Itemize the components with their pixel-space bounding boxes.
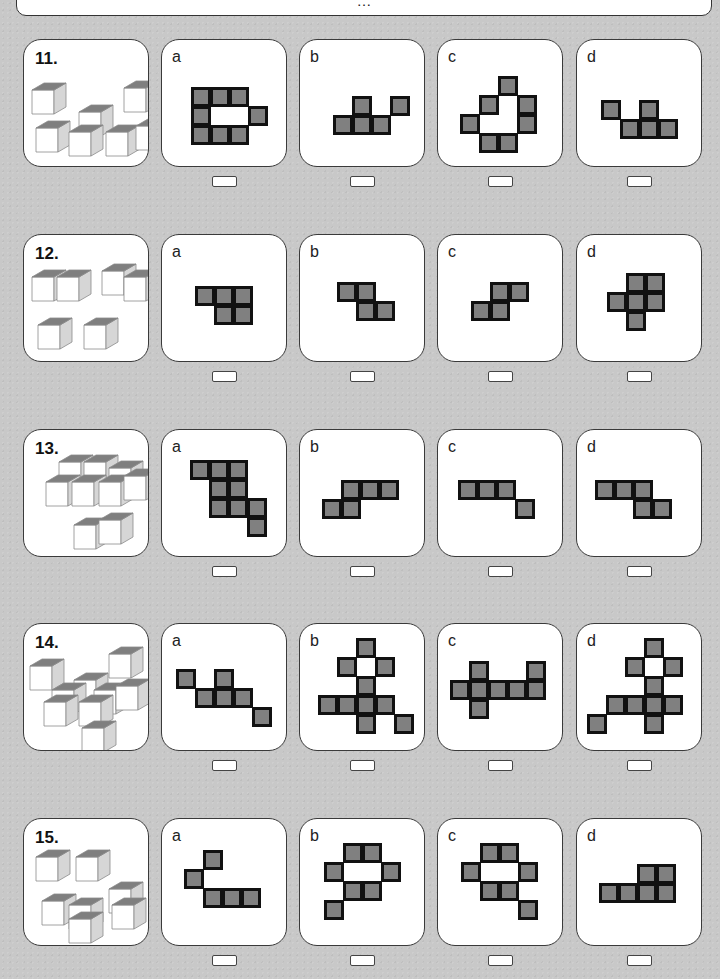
- net-square: [248, 106, 268, 126]
- answer-box-13d[interactable]: [627, 566, 652, 577]
- option-label: d: [587, 438, 596, 456]
- instructions-panel: …: [16, 0, 712, 16]
- cube-figure-card: 15.: [23, 818, 149, 946]
- net-square: [496, 480, 516, 500]
- net-square: [341, 480, 361, 500]
- net-square: [618, 883, 638, 903]
- answer-box-15c[interactable]: [488, 955, 513, 966]
- net-square: [233, 305, 253, 325]
- net-square: [343, 881, 363, 901]
- net-square: [595, 480, 615, 500]
- net-square: [480, 843, 500, 863]
- net-square: [337, 282, 357, 302]
- net-square: [518, 900, 538, 920]
- answer-box-13c[interactable]: [488, 566, 513, 577]
- net-square: [356, 714, 376, 734]
- option-label: b: [310, 48, 319, 66]
- answer-box-14d[interactable]: [627, 760, 652, 771]
- answer-box-11c[interactable]: [488, 176, 513, 187]
- option-card-d[interactable]: d: [576, 429, 702, 557]
- net-square: [656, 883, 676, 903]
- option-card-d[interactable]: d: [576, 818, 702, 946]
- net-square: [587, 714, 607, 734]
- net-square: [233, 286, 253, 306]
- answer-box-11b[interactable]: [350, 176, 375, 187]
- net-square: [663, 657, 683, 677]
- net-square: [626, 273, 646, 293]
- net-square: [498, 76, 518, 96]
- option-card-b[interactable]: b: [299, 234, 425, 362]
- option-card-a[interactable]: a: [161, 818, 287, 946]
- option-card-b[interactable]: b: [299, 39, 425, 167]
- option-label: c: [448, 48, 456, 66]
- net-square: [318, 695, 338, 715]
- option-card-d[interactable]: d: [576, 234, 702, 362]
- option-card-d[interactable]: d: [576, 39, 702, 167]
- option-label: b: [310, 243, 319, 261]
- net-square: [375, 301, 395, 321]
- net-square: [214, 669, 234, 689]
- net-square: [362, 843, 382, 863]
- net-square: [625, 657, 645, 677]
- option-card-a[interactable]: a: [161, 429, 287, 557]
- option-card-c[interactable]: c: [437, 623, 563, 751]
- option-label: d: [587, 243, 596, 261]
- net-square: [499, 843, 519, 863]
- answer-box-11d[interactable]: [627, 176, 652, 187]
- answer-box-15d[interactable]: [627, 955, 652, 966]
- answer-box-14b[interactable]: [350, 760, 375, 771]
- answer-box-15b[interactable]: [350, 955, 375, 966]
- net-square: [499, 881, 519, 901]
- problem-row: 14.abcd: [0, 623, 720, 783]
- answer-box-12a[interactable]: [212, 371, 237, 382]
- option-label: a: [172, 48, 181, 66]
- net-square: [637, 864, 657, 884]
- answer-box-12b[interactable]: [350, 371, 375, 382]
- net-square: [639, 119, 659, 139]
- option-card-a[interactable]: a: [161, 234, 287, 362]
- option-card-c[interactable]: c: [437, 429, 563, 557]
- net-square: [375, 695, 395, 715]
- net-square: [488, 680, 508, 700]
- option-card-c[interactable]: c: [437, 39, 563, 167]
- answer-box-15a[interactable]: [212, 955, 237, 966]
- net-square: [633, 480, 653, 500]
- net-square: [644, 695, 664, 715]
- option-card-b[interactable]: b: [299, 623, 425, 751]
- option-card-b[interactable]: b: [299, 429, 425, 557]
- net-square: [362, 881, 382, 901]
- net-square: [195, 286, 215, 306]
- option-card-a[interactable]: a: [161, 623, 287, 751]
- option-card-d[interactable]: d: [576, 623, 702, 751]
- net-square: [515, 499, 535, 519]
- net-square: [394, 714, 414, 734]
- net-square: [191, 87, 211, 107]
- net-square: [663, 695, 683, 715]
- net-square: [469, 699, 489, 719]
- option-card-c[interactable]: c: [437, 234, 563, 362]
- problem-number: 13.: [35, 439, 59, 459]
- option-card-c[interactable]: c: [437, 818, 563, 946]
- option-label: b: [310, 632, 319, 650]
- net-square: [645, 273, 665, 293]
- net-square: [658, 119, 678, 139]
- answer-box-13b[interactable]: [350, 566, 375, 577]
- answer-box-11a[interactable]: [212, 176, 237, 187]
- answer-box-14c[interactable]: [488, 760, 513, 771]
- problem-row: 11.abcd: [0, 39, 720, 199]
- net-square: [517, 95, 537, 115]
- problem-row: 12.abcd: [0, 234, 720, 394]
- option-card-a[interactable]: a: [161, 39, 287, 167]
- net-square: [480, 881, 500, 901]
- answer-box-14a[interactable]: [212, 760, 237, 771]
- answer-box-12c[interactable]: [488, 371, 513, 382]
- problem-row: 13.abcd: [0, 429, 720, 589]
- answer-box-12d[interactable]: [627, 371, 652, 382]
- answer-box-13a[interactable]: [212, 566, 237, 577]
- net-square: [356, 301, 376, 321]
- option-label: d: [587, 827, 596, 845]
- option-card-b[interactable]: b: [299, 818, 425, 946]
- net-square: [375, 657, 395, 677]
- option-label: a: [172, 243, 181, 261]
- net-square: [228, 460, 248, 480]
